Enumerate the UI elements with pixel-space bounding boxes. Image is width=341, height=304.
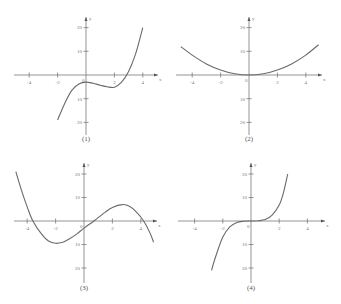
origin-label: 0 [80, 224, 83, 229]
y-tick-label: 20 [242, 172, 248, 177]
graph-3: xy-4-202420101020(3) [14, 162, 161, 292]
x-tick-label: -2 [54, 226, 59, 231]
function-curve [58, 28, 143, 120]
y-tick-label: 20 [75, 172, 81, 177]
y-tick-label: 10 [77, 49, 83, 54]
four-function-graphs: xy-4-202420101020(1)xy-4-202420101020(2)… [0, 0, 341, 304]
y-tick-label: 10 [242, 195, 248, 200]
graph-caption: (2) [245, 135, 254, 143]
y-arrow-icon [85, 17, 88, 21]
x-tick-label: 2 [278, 226, 281, 231]
x-arrow-icon [318, 74, 322, 77]
x-tick-label: 4 [142, 80, 145, 85]
y-arrow-icon [83, 163, 86, 167]
x-arrow-icon [154, 74, 158, 77]
x-tick-label: -4 [25, 226, 30, 231]
y-tick-label: 10 [242, 242, 248, 247]
x-tick-label: 2 [113, 80, 116, 85]
origin-label: 0 [247, 224, 250, 229]
y-tick-label: 20 [240, 25, 246, 30]
y-axis-label: y [254, 162, 257, 167]
y-tick-label: 20 [77, 25, 83, 30]
x-tick-label: -4 [27, 80, 32, 85]
y-axis-label: y [87, 162, 90, 167]
x-tick-label: 2 [111, 226, 114, 231]
y-tick-label: 20 [75, 266, 81, 271]
y-tick-label: 10 [240, 97, 246, 102]
y-tick-label: 10 [75, 195, 81, 200]
graph-2: xy-4-202420101020(2) [176, 16, 326, 143]
y-tick-label: 20 [240, 120, 246, 125]
x-arrow-icon [153, 220, 157, 223]
y-tick-label: 20 [77, 120, 83, 125]
graph-caption: (3) [80, 284, 89, 292]
x-tick-label: -4 [193, 226, 198, 231]
x-tick-label: -4 [190, 80, 195, 85]
x-axis-label: x [159, 77, 162, 82]
x-tick-label: 4 [305, 80, 308, 85]
y-axis-label: y [89, 16, 92, 21]
x-axis-label: x [323, 77, 326, 82]
graph-caption: (4) [247, 284, 256, 292]
x-tick-label: 2 [276, 80, 279, 85]
x-tick-label: -2 [221, 226, 226, 231]
y-arrow-icon [248, 17, 251, 21]
x-tick-label: -2 [219, 80, 224, 85]
x-tick-label: -2 [56, 80, 61, 85]
graph-4: xy-4-202420101020(4) [178, 162, 329, 292]
y-arrow-icon [250, 163, 253, 167]
x-axis-label: x [158, 223, 161, 228]
x-arrow-icon [321, 220, 325, 223]
function-curve [181, 45, 319, 75]
y-tick-label: 10 [240, 49, 246, 54]
x-tick-label: 4 [140, 226, 143, 231]
y-tick-label: 10 [75, 242, 81, 247]
graph-1: xy-4-202420101020(1) [14, 16, 162, 143]
y-axis-label: y [252, 16, 255, 21]
y-tick-label: 10 [77, 97, 83, 102]
function-curve [16, 172, 154, 244]
graph-caption: (1) [82, 135, 91, 143]
origin-label: 0 [245, 78, 248, 83]
y-tick-label: 20 [242, 266, 248, 271]
x-axis-label: x [326, 223, 329, 228]
x-tick-label: 4 [306, 226, 309, 231]
